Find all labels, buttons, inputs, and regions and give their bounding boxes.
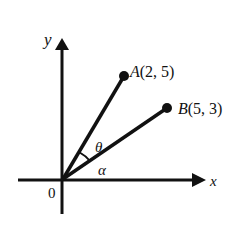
theta-arc	[79, 152, 90, 161]
point-B-letter: B	[178, 100, 188, 117]
point-A-coords: (2, 5)	[140, 63, 175, 81]
point-A-label: A(2, 5)	[129, 63, 174, 81]
diagram-svg: y x 0 A(2, 5) B(5, 3) θ α	[0, 0, 239, 243]
origin-label: 0	[48, 185, 56, 201]
theta-label: θ	[95, 139, 103, 155]
point-A	[119, 71, 129, 81]
alpha-label: α	[98, 162, 107, 178]
vector-OA	[63, 76, 124, 179]
x-axis-label: x	[209, 173, 217, 189]
x-axis-arrow-icon	[192, 173, 206, 187]
point-B-coords: (5, 3)	[188, 100, 223, 118]
vector-OB	[63, 108, 167, 179]
point-B-label: B(5, 3)	[178, 100, 222, 118]
y-axis-arrow-icon	[55, 38, 69, 50]
diagram-canvas: y x 0 A(2, 5) B(5, 3) θ α	[0, 0, 239, 243]
point-A-letter: A	[129, 63, 140, 80]
y-axis-label: y	[42, 30, 52, 49]
point-B	[162, 103, 172, 113]
